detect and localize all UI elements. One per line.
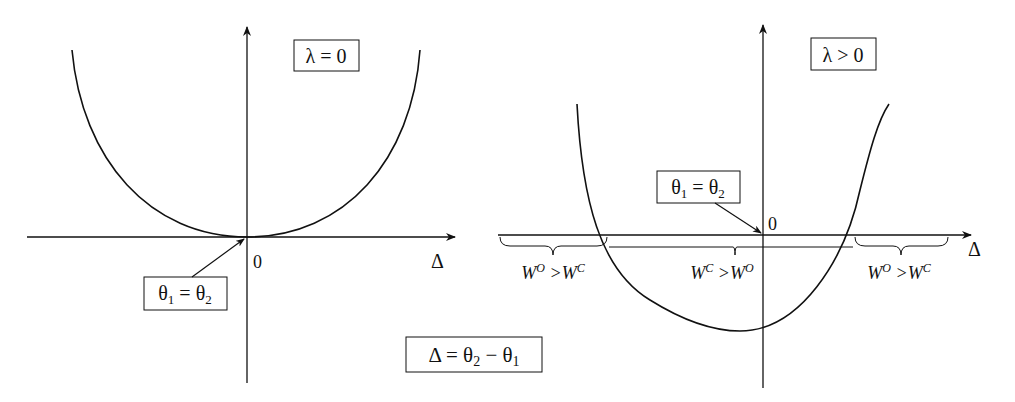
right-vertex-annotation: θ1 = θ2 xyxy=(671,176,724,201)
left-curve xyxy=(72,50,420,237)
right-vertex-pointer-arrow xyxy=(715,203,761,233)
left-vertex-annotation: θ1 = θ2 xyxy=(158,282,211,307)
region-left-label: WO >WC xyxy=(521,261,585,283)
brace-middle-region xyxy=(609,247,853,255)
right-panel: λ > 0 0 Δ θ1 = θ2 WO >WC WC >WO WO >WC xyxy=(498,25,981,388)
right-origin-label: 0 xyxy=(768,214,777,234)
left-condition-label: λ = 0 xyxy=(306,45,347,67)
left-origin-label: 0 xyxy=(253,252,262,272)
right-condition-label: λ > 0 xyxy=(823,44,864,66)
left-panel: λ = 0 0 Δ θ1 = θ2 xyxy=(27,27,455,383)
right-curve xyxy=(577,104,889,331)
left-vertex-pointer-arrow xyxy=(192,239,244,277)
left-x-axis-label: Δ xyxy=(431,250,444,272)
definition-box: Δ = θ2 − θ1 xyxy=(406,337,542,372)
brace-left-region xyxy=(500,237,607,255)
diagram-canvas: λ = 0 0 Δ θ1 = θ2 λ > 0 0 Δ θ1 = θ2 WO >… xyxy=(0,0,1015,402)
brace-right-region xyxy=(855,237,948,255)
right-x-axis-label: Δ xyxy=(968,238,981,260)
region-middle-label: WC >WO xyxy=(690,261,754,283)
region-right-label: WO >WC xyxy=(867,261,931,283)
